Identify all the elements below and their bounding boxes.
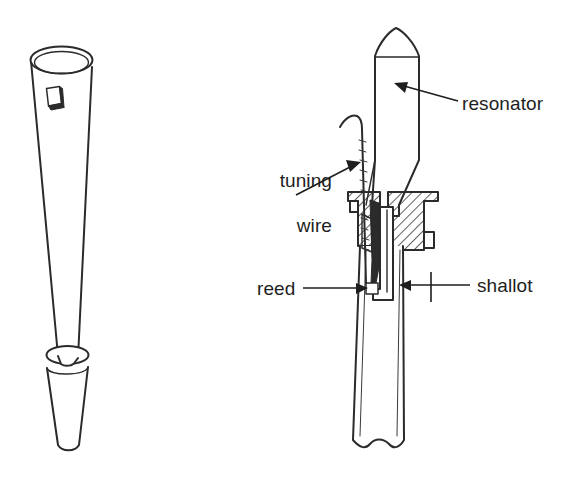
left-boot-body: [47, 367, 88, 450]
reed-pipe-diagram: tuning wire reed resonator shallot: [0, 0, 577, 487]
tuning-wire-arrowhead: [346, 160, 361, 172]
tuning-wire-hook: [340, 115, 362, 129]
block-right-step: [424, 232, 434, 248]
label-reed: reed: [257, 278, 295, 300]
left-perspective-view: [31, 47, 93, 451]
label-tuning-wire-line2: wire: [236, 215, 332, 237]
label-tuning-wire: tuning wire: [236, 148, 332, 282]
left-tuning-slot: [47, 87, 62, 107]
label-resonator: resonator: [462, 93, 543, 115]
block-right-half: [388, 192, 438, 250]
reed-tip: [366, 283, 378, 294]
label-tuning-wire-line1: tuning: [280, 170, 332, 191]
label-shallot: shallot: [477, 275, 533, 297]
block-left-step: [350, 201, 358, 212]
resonator-outline: [372, 28, 419, 216]
